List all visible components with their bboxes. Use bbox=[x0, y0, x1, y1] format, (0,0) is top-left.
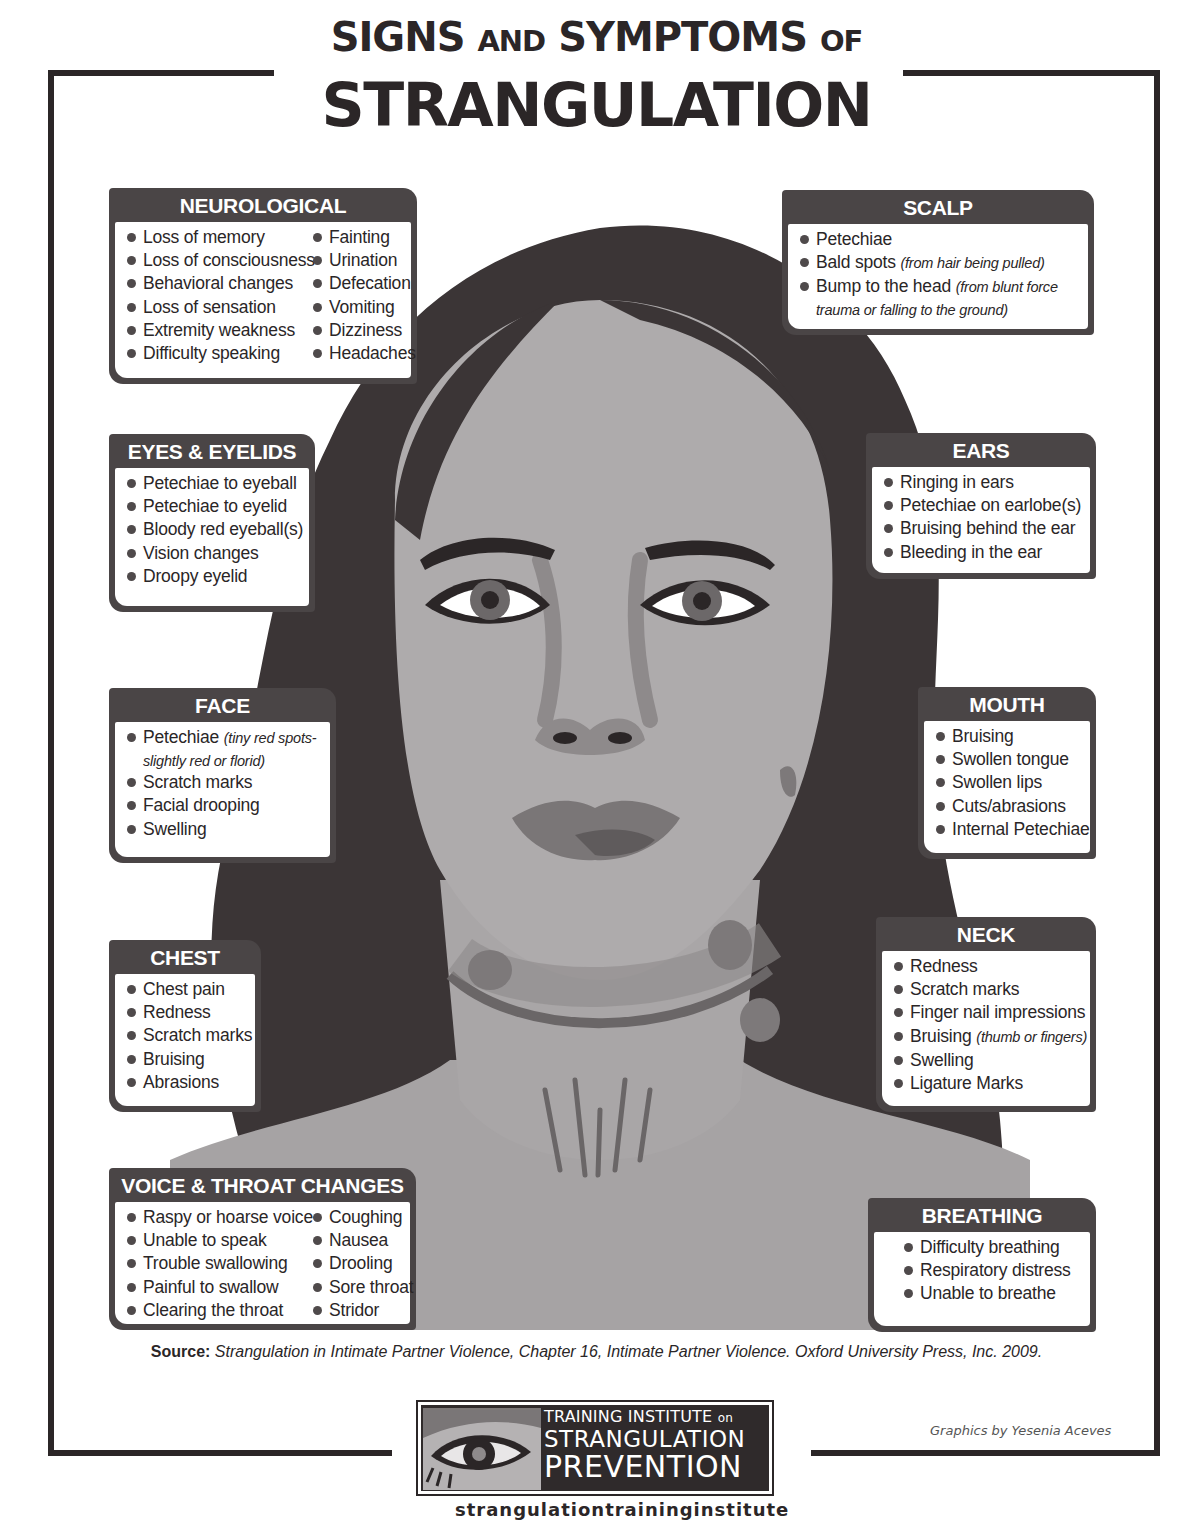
list-item: Coughing bbox=[311, 1206, 413, 1229]
list-item: Sore throat bbox=[311, 1276, 413, 1299]
voice-list-col1: Raspy or hoarse voice Unable to speak Tr… bbox=[125, 1206, 311, 1318]
training-institute-logo: TRAINING INSTITUTE on STRANGULATION PREV… bbox=[416, 1400, 774, 1496]
list-item: Defecation bbox=[311, 272, 416, 295]
breathing-heading: BREATHING CHANGES bbox=[874, 1198, 1090, 1232]
list-item: Bump to the head (from blunt force bbox=[798, 275, 1082, 299]
voice-throat-box: VOICE & THROAT CHANGES Raspy or hoarse v… bbox=[109, 1168, 416, 1330]
list-item: Petechiae to eyeball bbox=[125, 472, 303, 495]
list-item: Petechiae on earlobe(s) bbox=[882, 494, 1084, 517]
list-item: Scratch marks bbox=[125, 1024, 249, 1047]
list-item: Drooling bbox=[311, 1252, 413, 1275]
source-label: Source: bbox=[151, 1343, 211, 1360]
neurological-box: NEUROLOGICAL Loss of memory Loss of cons… bbox=[109, 188, 417, 384]
list-item: Loss of consciousness bbox=[125, 249, 311, 272]
face-box: FACE Petechiae (tiny red spots- slightly… bbox=[109, 688, 336, 863]
list-item: Stridor bbox=[311, 1299, 413, 1322]
list-item: Fainting bbox=[311, 226, 416, 249]
list-item: Bald spots (from hair being pulled) bbox=[798, 251, 1082, 275]
website-url-partial[interactable]: strangulationtraininginstitute bbox=[455, 1499, 789, 1520]
list-item: Extremity weakness bbox=[125, 319, 311, 342]
list-item: Facial drooping bbox=[125, 794, 324, 817]
list-item: Difficulty speaking bbox=[125, 342, 311, 365]
voice-list-col2: Coughing Nausea Drooling Sore throat Str… bbox=[311, 1206, 413, 1318]
list-item: Swelling bbox=[125, 818, 324, 841]
graphics-credit: Graphics by Yesenia Aceves bbox=[930, 1423, 1111, 1438]
list-item: Painful to swallow bbox=[125, 1276, 311, 1299]
list-item: Difficulty breathing bbox=[902, 1236, 1084, 1259]
neurological-heading: NEUROLOGICAL bbox=[115, 188, 411, 222]
ears-heading: EARS bbox=[872, 433, 1090, 467]
list-item: Vision changes bbox=[125, 542, 303, 565]
list-item: Vomiting bbox=[311, 296, 416, 319]
eyes-eyelids-box: EYES & EYELIDS Petechiae to eyeball Pete… bbox=[109, 434, 315, 612]
breathing-box: BREATHING CHANGES Difficulty breathing R… bbox=[868, 1198, 1096, 1332]
list-item: Clearing the throat bbox=[125, 1299, 311, 1322]
list-item: Raspy or hoarse voice bbox=[125, 1206, 311, 1229]
mouth-heading: MOUTH bbox=[924, 687, 1090, 721]
list-item: Bruising behind the ear bbox=[882, 517, 1084, 540]
list-item: Scratch marks bbox=[892, 978, 1084, 1001]
list-item: Chest pain bbox=[125, 978, 249, 1001]
list-item: Unable to breathe bbox=[902, 1282, 1084, 1305]
list-item: Bruising bbox=[934, 725, 1084, 748]
source-text: Strangulation in Intimate Partner Violen… bbox=[210, 1343, 1042, 1360]
list-item: Loss of memory bbox=[125, 226, 311, 249]
list-item: Internal Petechiae bbox=[934, 818, 1084, 841]
ears-box: EARS Ringing in ears Petechiae on earlob… bbox=[866, 433, 1096, 579]
list-item: Bruising bbox=[125, 1048, 249, 1071]
list-item: Finger nail impressions bbox=[892, 1001, 1084, 1024]
list-item: Abrasions bbox=[125, 1071, 249, 1094]
logo-line1: TRAINING INSTITUTE on bbox=[544, 1409, 745, 1425]
eye-icon bbox=[423, 1408, 541, 1490]
list-item: Ringing in ears bbox=[882, 471, 1084, 494]
list-item-continued: trauma or falling to the ground) bbox=[798, 300, 1082, 319]
scalp-box: SCALP Petechiae Bald spots (from hair be… bbox=[782, 190, 1094, 335]
list-item: Droopy eyelid bbox=[125, 565, 303, 588]
list-item: Bruising (thumb or fingers) bbox=[892, 1025, 1084, 1049]
list-item: Respiratory distress bbox=[902, 1259, 1084, 1282]
list-item: Swelling bbox=[892, 1049, 1084, 1072]
list-item: Redness bbox=[892, 955, 1084, 978]
list-item: Bleeding in the ear bbox=[882, 541, 1084, 564]
list-item: Redness bbox=[125, 1001, 249, 1024]
list-item: Headaches bbox=[311, 342, 416, 365]
list-item: Trouble swallowing bbox=[125, 1252, 311, 1275]
neurological-list-col2: Fainting Urination Defecation Vomiting D… bbox=[311, 226, 416, 372]
list-item: Swollen tongue bbox=[934, 748, 1084, 771]
eyes-eyelids-heading: EYES & EYELIDS bbox=[115, 434, 309, 468]
neurological-list-col1: Loss of memory Loss of consciousness Beh… bbox=[125, 226, 311, 372]
source-citation: Source: Strangulation in Intimate Partne… bbox=[0, 1343, 1193, 1361]
chest-box: CHEST Chest pain Redness Scratch marks B… bbox=[109, 940, 261, 1112]
neck-box: NECK Redness Scratch marks Finger nail i… bbox=[876, 917, 1096, 1112]
face-heading: FACE bbox=[115, 688, 330, 722]
list-item: Unable to speak bbox=[125, 1229, 311, 1252]
list-item-continued: slightly red or florid) bbox=[125, 750, 324, 771]
list-item: Cuts/abrasions bbox=[934, 795, 1084, 818]
logo-line2: STRANGULATION bbox=[544, 1428, 745, 1451]
list-item: Bloody red eyeball(s) bbox=[125, 518, 303, 541]
list-item: Behavioral changes bbox=[125, 272, 311, 295]
list-item: Nausea bbox=[311, 1229, 413, 1252]
list-item: Petechiae bbox=[798, 228, 1082, 251]
list-item: Petechiae (tiny red spots- bbox=[125, 726, 324, 750]
logo-line3: PREVENTION bbox=[544, 1452, 745, 1482]
list-item: Dizziness bbox=[311, 319, 416, 342]
list-item: Scratch marks bbox=[125, 771, 324, 794]
scalp-heading: SCALP bbox=[788, 190, 1088, 224]
neck-heading: NECK bbox=[882, 917, 1090, 951]
list-item: Loss of sensation bbox=[125, 296, 311, 319]
voice-throat-heading: VOICE & THROAT CHANGES bbox=[115, 1168, 410, 1202]
list-item: Swollen lips bbox=[934, 771, 1084, 794]
list-item: Urination bbox=[311, 249, 416, 272]
chest-heading: CHEST bbox=[115, 940, 255, 974]
list-item: Ligature Marks bbox=[892, 1072, 1084, 1095]
mouth-box: MOUTH Bruising Swollen tongue Swollen li… bbox=[918, 687, 1096, 859]
list-item: Petechiae to eyelid bbox=[125, 495, 303, 518]
